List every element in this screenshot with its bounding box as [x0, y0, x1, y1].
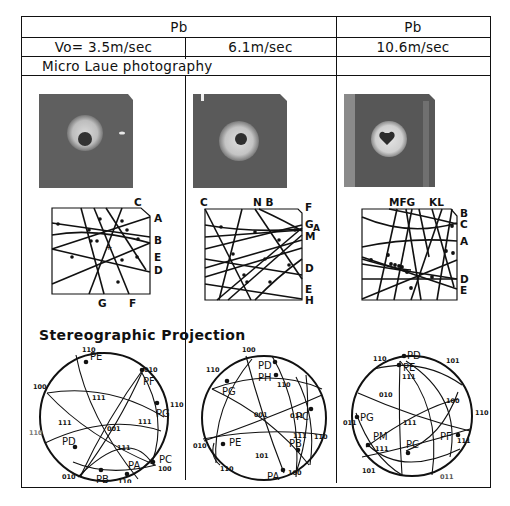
svg-text:M: M	[305, 230, 315, 242]
svg-text:111: 111	[293, 432, 307, 440]
svg-text:PG: PG	[156, 408, 170, 419]
svg-text:110: 110	[475, 409, 489, 417]
svg-text:111: 111	[138, 418, 152, 426]
svg-text:111: 111	[92, 394, 106, 402]
svg-text:C: C	[460, 218, 468, 230]
stereographic-projection-title: Stereographic Projection	[39, 327, 246, 343]
svg-text:110: 110	[29, 429, 43, 437]
svg-text:PD: PD	[62, 436, 76, 447]
header-row-material: Pb Pb	[22, 17, 490, 38]
velocity-col2: 6.1m/sec	[185, 38, 336, 56]
svg-text:H: H	[305, 294, 314, 306]
header-row-velocity: Vo= 3.5m/sec 6.1m/sec 10.6m/sec	[22, 38, 490, 57]
svg-text:101: 101	[446, 357, 460, 365]
svg-text:F: F	[129, 297, 136, 309]
material-label-right: Pb	[336, 17, 490, 37]
svg-text:PD: PD	[258, 360, 272, 371]
material-label-left: Pb	[22, 17, 336, 37]
svg-text:KL: KL	[429, 197, 444, 208]
svg-text:PE: PE	[229, 437, 241, 448]
svg-text:D: D	[305, 262, 314, 274]
svg-text:E: E	[460, 284, 467, 296]
svg-text:110: 110	[206, 366, 220, 374]
svg-text:PA: PA	[128, 460, 140, 471]
svg-text:PC: PC	[406, 439, 419, 450]
svg-text:PG: PG	[222, 386, 236, 397]
laue-trace-1: + C A B E D G F	[34, 197, 184, 309]
svg-text:111: 111	[403, 419, 417, 427]
svg-text:PM: PM	[373, 431, 388, 442]
svg-text:PB: PB	[96, 474, 109, 483]
svg-text:B: B	[154, 234, 162, 246]
svg-text:011: 011	[343, 419, 357, 427]
svg-text:C: C	[200, 197, 208, 208]
svg-text:100: 100	[242, 347, 256, 354]
svg-text:011: 011	[290, 412, 304, 420]
velocity-col3: 10.6m/sec	[336, 38, 490, 56]
figure-table: Pb Pb Vo= 3.5m/sec 6.1m/sec 10.6m/sec Mi…	[21, 16, 491, 488]
svg-text:010: 010	[193, 442, 207, 450]
velocity-col1: Vo= 3.5m/sec	[22, 38, 185, 56]
svg-text:110: 110	[277, 381, 291, 389]
svg-text:100: 100	[33, 383, 47, 391]
svg-text:PH: PH	[258, 372, 272, 383]
svg-text:PC: PC	[159, 454, 172, 465]
trace-1-labels: C A B E D G F	[98, 197, 163, 309]
laue-trace-3: MFG KL B C A D E	[349, 197, 489, 309]
laue-trace-2: C N B F G A M D E H	[197, 197, 347, 309]
svg-text:N B: N B	[253, 197, 273, 208]
svg-text:PF: PF	[440, 431, 452, 442]
svg-text:110: 110	[220, 465, 234, 473]
laue-photo-2	[192, 93, 288, 189]
svg-text:F: F	[305, 201, 312, 213]
svg-text:111: 111	[117, 444, 131, 452]
svg-text:E: E	[154, 251, 161, 263]
svg-text:100: 100	[158, 465, 172, 473]
svg-text:PD: PD	[407, 350, 421, 361]
svg-text:111: 111	[58, 419, 72, 427]
svg-text:MFG: MFG	[389, 197, 415, 208]
svg-text:G: G	[98, 297, 107, 309]
laue-photo-3	[341, 93, 437, 189]
svg-text:001: 001	[254, 411, 268, 419]
method-label: Micro Laue photography	[22, 57, 336, 75]
svg-text:101: 101	[362, 467, 376, 475]
svg-text:PG: PG	[360, 412, 374, 423]
svg-text:100: 100	[446, 397, 460, 405]
svg-text:+: +	[105, 242, 113, 252]
svg-text:110: 110	[82, 347, 96, 354]
header-row-method: Micro Laue photography	[22, 57, 490, 76]
stereogram-2: PD PH PG PC PE PB PA 100 110 110 001 011…	[192, 347, 342, 483]
svg-text:010: 010	[144, 366, 158, 374]
svg-text:001: 001	[107, 425, 121, 433]
svg-text:010: 010	[379, 391, 393, 399]
svg-text:PF: PF	[143, 376, 155, 387]
laue-photo-1	[38, 93, 134, 189]
svg-text:010: 010	[62, 473, 76, 481]
svg-text:PA: PA	[267, 471, 279, 482]
svg-text:101: 101	[255, 452, 269, 460]
svg-text:111: 111	[402, 373, 416, 381]
svg-text:110: 110	[373, 355, 387, 363]
svg-text:C: C	[134, 197, 142, 208]
svg-text:111: 111	[457, 437, 471, 445]
svg-text:PE: PE	[403, 362, 415, 373]
svg-text:D: D	[154, 264, 163, 276]
svg-text:100: 100	[288, 469, 302, 477]
column-divider-left-header	[185, 38, 186, 59]
svg-text:110: 110	[314, 433, 328, 441]
stereogram-1: PE PF PG PC PA PB PD 110 010 100 110 111…	[28, 347, 188, 483]
svg-text:111: 111	[375, 445, 389, 453]
svg-text:A: A	[460, 235, 469, 247]
svg-text:110: 110	[170, 401, 184, 409]
svg-text:011: 011	[440, 473, 454, 481]
svg-text:A: A	[154, 212, 163, 224]
stereogram-3: PD PE PG PM PC PF 110 101 111 010 100 01…	[342, 347, 490, 483]
svg-text:110: 110	[118, 478, 132, 483]
